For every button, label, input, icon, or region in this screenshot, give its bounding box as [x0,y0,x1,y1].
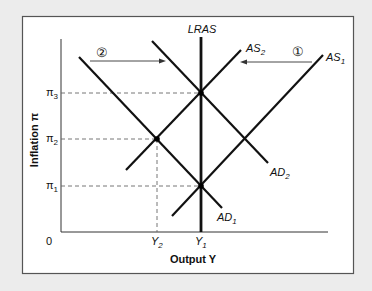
equilibrium-dot-pi1 [198,183,204,189]
equilibrium-dot-pi3 [198,90,204,96]
y-axis-title: Inflation π [28,112,40,167]
marker-2: ② [96,45,108,60]
equilibrium-dot-pi2 [154,136,160,142]
lras-label: LRAS [188,23,217,35]
as-ad-diagram: ② ① LRAS AS2 AS1 AD2 AD1 π3 π2 π1 0 Y2 Y… [0,0,372,291]
x-axis-title: Output Y [170,253,217,265]
origin-label: 0 [46,235,52,247]
marker-1: ① [292,44,304,59]
